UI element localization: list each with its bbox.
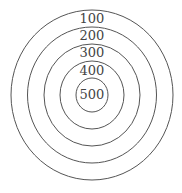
ring-label-200: 200 bbox=[80, 28, 105, 43]
ring-label-400: 400 bbox=[80, 63, 105, 78]
ring-label-100: 100 bbox=[80, 11, 105, 26]
concentric-rings-diagram: 100 200 300 400 500 bbox=[0, 0, 182, 193]
ring-label-500: 500 bbox=[80, 87, 105, 102]
ring-label-300: 300 bbox=[80, 45, 105, 60]
